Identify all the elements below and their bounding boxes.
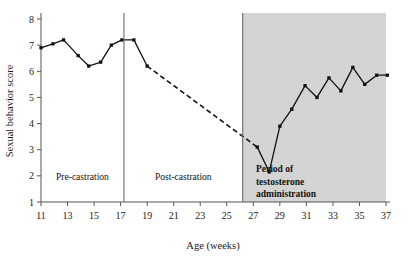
data-point-marker xyxy=(62,38,65,41)
x-tick-label-11: 11 xyxy=(36,210,46,221)
x-axis-title: Age (weeks) xyxy=(186,240,240,252)
x-tick-label-17: 17 xyxy=(116,210,126,221)
x-tick-label-21: 21 xyxy=(169,210,179,221)
data-point-marker xyxy=(290,108,293,111)
y-axis-title: Sexual behavior score xyxy=(4,64,15,157)
phase-label-pre-castration: Pre-castration xyxy=(56,172,109,182)
x-tick-label-37: 37 xyxy=(381,210,391,221)
phase-label-post-castration: Post-castration xyxy=(155,172,212,182)
y-tick-label-1: 1 xyxy=(29,197,34,208)
data-point-marker xyxy=(87,64,90,67)
x-tick-label-19: 19 xyxy=(142,210,152,221)
data-point-marker xyxy=(327,76,330,79)
y-tick-label-8: 8 xyxy=(29,14,34,25)
data-point-marker xyxy=(51,42,54,45)
data-point-marker xyxy=(339,89,342,92)
data-point-marker xyxy=(303,84,306,87)
chart-figure: 123456781113151719212325272931333537 Pre… xyxy=(0,0,407,261)
x-tick-label-35: 35 xyxy=(354,210,364,221)
data-point-marker xyxy=(110,43,113,46)
phase-label-line: Pre-castration xyxy=(56,172,109,182)
phase-label-line: testosterone xyxy=(256,177,304,187)
y-tick-label-4: 4 xyxy=(29,118,34,129)
data-point-marker xyxy=(363,83,366,86)
y-tick-label-7: 7 xyxy=(29,40,34,51)
x-tick-label-29: 29 xyxy=(275,210,285,221)
data-point-marker xyxy=(386,74,389,77)
x-tick-label-27: 27 xyxy=(248,210,258,221)
data-point-marker xyxy=(120,38,123,41)
data-point-marker xyxy=(77,54,80,57)
phase-label-line: Period of xyxy=(256,164,294,174)
x-tick-label-15: 15 xyxy=(89,210,99,221)
x-tick-label-23: 23 xyxy=(195,210,205,221)
data-point-marker xyxy=(39,46,42,49)
phase-label-line: administration xyxy=(256,189,317,199)
data-point-marker xyxy=(315,96,318,99)
data-point-marker xyxy=(256,145,259,148)
y-tick-label-5: 5 xyxy=(29,92,34,103)
data-point-marker xyxy=(278,125,281,128)
y-tick-label-2: 2 xyxy=(29,170,34,181)
data-point-marker xyxy=(351,66,354,69)
phase-label-line: Post-castration xyxy=(155,172,212,182)
x-tick-label-31: 31 xyxy=(301,210,311,221)
y-tick-label-6: 6 xyxy=(29,66,34,77)
x-tick-label-33: 33 xyxy=(328,210,338,221)
sexual-behavior-score-line-chart: 123456781113151719212325272931333537 Pre… xyxy=(0,0,407,261)
y-tick-label-3: 3 xyxy=(29,144,34,155)
data-point-marker xyxy=(99,60,102,63)
data-point-marker xyxy=(132,38,135,41)
x-tick-label-13: 13 xyxy=(63,210,73,221)
data-point-marker xyxy=(375,74,378,77)
x-tick-label-25: 25 xyxy=(222,210,232,221)
